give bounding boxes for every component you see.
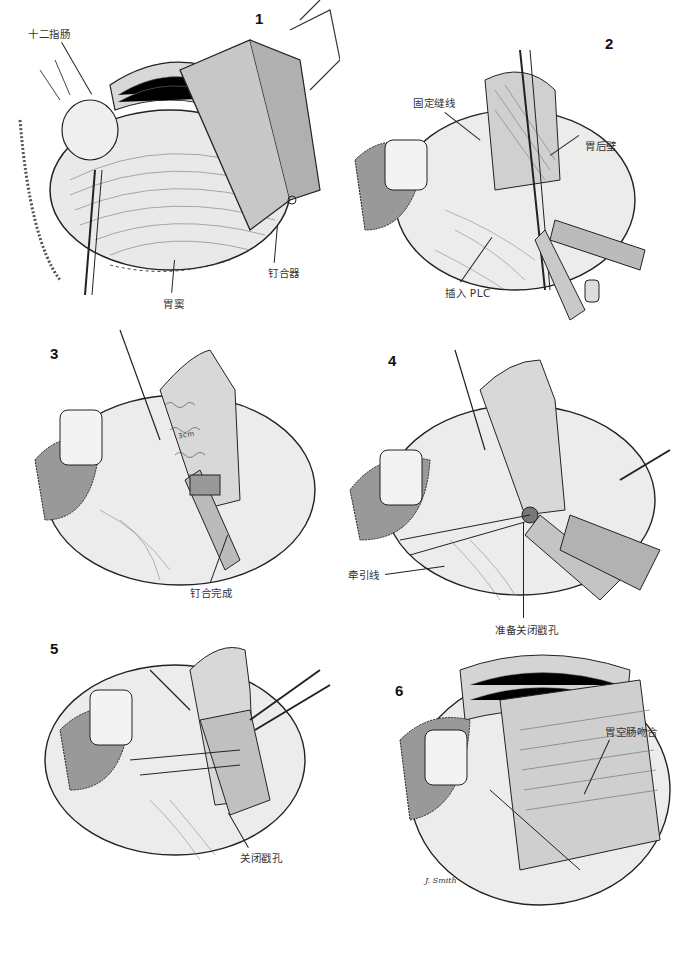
label-close-stab-hole: 关闭戳孔 [240, 850, 282, 865]
label-stapling-complete: 钉合完成 [190, 585, 232, 600]
label-antrum: 胃窦 [163, 296, 184, 311]
label-traction-suture: 牵引线 [348, 567, 380, 582]
leader-line [523, 523, 524, 618]
figure-6: 6 胃空肠吻合 J. Smith [380, 640, 700, 940]
figure-number: 1 [255, 10, 263, 27]
figure-3-illustration [0, 330, 340, 600]
figure-5-illustration [0, 630, 340, 890]
illustration-page: 1 十二指肠 胃窦 钉合器 2 固定缝线 胃后壁 插入 PLC [0, 0, 700, 961]
label-duodenum: 十二指肠 [28, 26, 70, 41]
figure-5: 5 关闭戳孔 [0, 630, 340, 890]
figure-3: 3 3cm 钉合完成 [0, 330, 340, 600]
figure-number: 2 [605, 35, 613, 52]
label-insert-plc: 插入 PLC [445, 285, 491, 300]
figure-2: 2 固定缝线 胃后壁 插入 PLC [345, 30, 700, 330]
label-gastrojejunostomy: 胃空肠吻合 [605, 724, 658, 739]
figure-number: 3 [50, 345, 58, 362]
figure-4-illustration [340, 340, 700, 640]
figure-number: 6 [395, 682, 403, 699]
figure-1: 1 十二指肠 胃窦 钉合器 [0, 0, 340, 320]
figure-2-illustration [345, 30, 700, 330]
artist-signature: J. Smith [425, 876, 457, 885]
figure-number: 5 [50, 640, 58, 657]
label-stapler: 钉合器 [268, 265, 300, 280]
label-stay-suture: 固定缝线 [413, 95, 455, 110]
label-posterior-gastric-wall: 胃后壁 [585, 138, 617, 153]
figure-4: 4 牵引线 准备关闭戳孔 [340, 340, 700, 640]
figure-6-illustration [380, 640, 700, 940]
figure-number: 4 [388, 352, 396, 369]
label-prepare-close-stab-hole: 准备关闭戳孔 [495, 622, 558, 637]
